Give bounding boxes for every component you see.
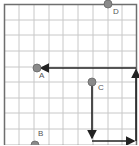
grid-diagram: A B C D (0, 0, 139, 145)
label-c: C (98, 84, 104, 92)
label-d: D (113, 8, 119, 16)
point-d (104, 0, 112, 8)
grid-lines (4, 4, 137, 145)
grid-svg (0, 0, 139, 145)
point-b (31, 141, 39, 145)
point-c (88, 78, 96, 86)
grid-border (5, 5, 137, 146)
label-b: B (38, 130, 43, 138)
label-a: A (39, 72, 44, 80)
